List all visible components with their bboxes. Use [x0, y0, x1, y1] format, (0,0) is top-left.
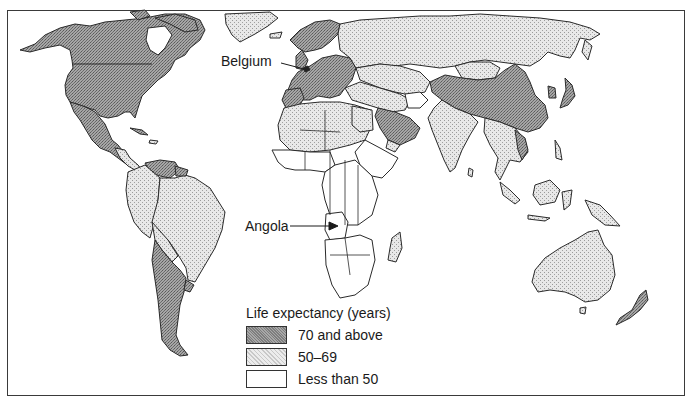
- legend-item-low: Less than 50: [246, 368, 391, 390]
- guianas: [175, 166, 188, 176]
- philippines: [555, 140, 562, 160]
- borneo: [533, 180, 560, 205]
- java: [528, 215, 550, 221]
- mongolia: [455, 62, 500, 80]
- southern-africa: [325, 235, 375, 298]
- legend-swatch-medium: [246, 348, 287, 366]
- west-africa: [272, 150, 335, 172]
- scandinavia: [290, 20, 340, 52]
- legend-label-medium: 50–69: [298, 349, 337, 365]
- madagascar: [388, 232, 402, 262]
- legend-item-medium: 50–69: [246, 346, 391, 368]
- angola-label: Angola: [245, 218, 289, 234]
- legend-swatch-low: [246, 370, 287, 388]
- australia: [532, 230, 615, 302]
- legend: Life expectancy (years) 70 and above 50–…: [246, 305, 391, 390]
- new-zealand: [616, 290, 648, 325]
- sulawesi: [562, 190, 572, 210]
- legend-title: Life expectancy (years): [246, 305, 391, 321]
- russia: [338, 14, 600, 68]
- legend-item-high: 70 and above: [246, 324, 391, 346]
- afghanistan: [405, 92, 428, 108]
- belgium-label: Belgium: [221, 53, 272, 69]
- legend-label-low: Less than 50: [298, 371, 378, 387]
- sri-lanka: [468, 168, 473, 177]
- cuba: [130, 128, 148, 135]
- tasmania: [580, 307, 586, 314]
- legend-label-high: 70 and above: [298, 327, 383, 343]
- north-america: [20, 14, 205, 118]
- legend-swatch-high: [246, 326, 287, 344]
- japan: [560, 78, 575, 108]
- egypt: [352, 106, 373, 132]
- saudi-arabia: [375, 108, 420, 145]
- new-guinea: [585, 200, 620, 226]
- sumatra: [500, 182, 520, 204]
- korea: [548, 86, 556, 98]
